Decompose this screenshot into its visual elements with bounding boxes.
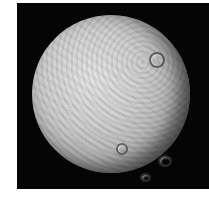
moon-sphere [32, 15, 190, 173]
surface-texture [32, 15, 190, 173]
crater-large [149, 52, 165, 68]
crater [116, 143, 128, 155]
crater [140, 173, 151, 182]
crater [158, 155, 172, 167]
image-frame [17, 3, 209, 189]
